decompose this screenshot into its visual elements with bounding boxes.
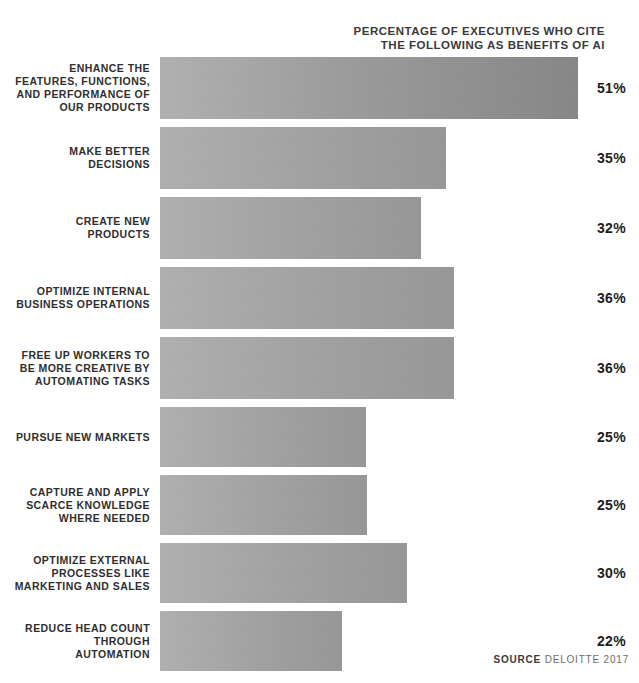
bar-category-label-line: AUTOMATION	[0, 648, 150, 661]
bar-fill[interactable]	[160, 407, 366, 467]
bar-track: 25%	[160, 475, 639, 535]
bar-category-label-line: WHERE NEEDED	[0, 512, 150, 525]
bar-track: 25%	[160, 407, 639, 467]
bar-value-label: 35%	[587, 150, 639, 166]
source-label: SOURCE	[493, 654, 541, 665]
bar-category-label-line: SCARCE KNOWLEDGE	[0, 499, 150, 512]
chart-title-line-1: PERCENTAGE OF EXECUTIVES WHO CITE	[300, 24, 605, 38]
bar-fill[interactable]	[160, 127, 446, 189]
bar-fill[interactable]	[160, 475, 367, 535]
bar-chart: PERCENTAGE OF EXECUTIVES WHO CITE THE FO…	[0, 0, 639, 683]
bar-fill[interactable]	[160, 57, 578, 119]
chart-title-line-2: THE FOLLOWING AS BENEFITS OF AI	[300, 38, 605, 52]
bar-track: 32%	[160, 197, 639, 259]
bar-value-label: 25%	[587, 497, 639, 513]
bar-value-label: 22%	[587, 633, 639, 649]
bar-row: OPTIMIZE INTERNALBUSINESS OPERATIONS36%	[0, 267, 639, 329]
bar-category-label: PURSUE NEW MARKETS	[0, 431, 160, 444]
bar-track: 30%	[160, 543, 639, 603]
bar-row: CAPTURE AND APPLYSCARCE KNOWLEDGEWHERE N…	[0, 475, 639, 535]
bar-category-label-line: AUTOMATING TASKS	[0, 375, 150, 388]
bar-category-label-line: CAPTURE AND APPLY	[0, 486, 150, 499]
bar-category-label: CREATE NEWPRODUCTS	[0, 215, 160, 241]
bar-fill[interactable]	[160, 197, 421, 259]
bar-category-label-line: FREE UP WORKERS TO	[0, 349, 150, 362]
bar-category-label-line: THROUGH	[0, 635, 150, 648]
bar-fill[interactable]	[160, 267, 454, 329]
bar-category-label: MAKE BETTERDECISIONS	[0, 145, 160, 171]
bar-category-label-line: MARKETING AND SALES	[0, 580, 150, 593]
bar-value-label: 36%	[587, 290, 639, 306]
bar-category-label: OPTIMIZE EXTERNALPROCESSES LIKEMARKETING…	[0, 554, 160, 593]
bar-value-label: 32%	[587, 220, 639, 236]
bar-value-label: 51%	[587, 80, 639, 96]
bar-fill[interactable]	[160, 611, 342, 671]
bar-category-label-line: OUR PRODUCTS	[0, 101, 150, 114]
bar-category-label: ENHANCE THEFEATURES, FUNCTIONS,AND PERFO…	[0, 62, 160, 114]
source-text: DELOITTE 2017	[545, 654, 629, 665]
bar-fill[interactable]	[160, 543, 407, 603]
bar-track: 35%	[160, 127, 639, 189]
chart-title: PERCENTAGE OF EXECUTIVES WHO CITE THE FO…	[300, 24, 605, 52]
bar-row: MAKE BETTERDECISIONS35%	[0, 127, 639, 189]
bar-track: 51%	[160, 57, 639, 119]
bar-category-label-line: CREATE NEW	[0, 215, 150, 228]
bar-row: FREE UP WORKERS TOBE MORE CREATIVE BYAUT…	[0, 337, 639, 399]
bar-row: OPTIMIZE EXTERNALPROCESSES LIKEMARKETING…	[0, 543, 639, 603]
bar-value-label: 36%	[587, 360, 639, 376]
bar-value-label: 30%	[587, 565, 639, 581]
bar-category-label-line: ENHANCE THE	[0, 62, 150, 75]
bar-category-label-line: OPTIMIZE INTERNAL	[0, 285, 150, 298]
bar-category-label-line: MAKE BETTER	[0, 145, 150, 158]
bar-category-label-line: PRODUCTS	[0, 228, 150, 241]
bar-row: ENHANCE THEFEATURES, FUNCTIONS,AND PERFO…	[0, 57, 639, 119]
bar-category-label: REDUCE HEAD COUNTTHROUGHAUTOMATION	[0, 622, 160, 661]
bar-track: 36%	[160, 267, 639, 329]
bar-category-label-line: AND PERFORMANCE OF	[0, 88, 150, 101]
bar-row: CREATE NEWPRODUCTS32%	[0, 197, 639, 259]
bar-category-label-line: BUSINESS OPERATIONS	[0, 298, 150, 311]
bar-category-label-line: OPTIMIZE EXTERNAL	[0, 554, 150, 567]
bar-category-label: OPTIMIZE INTERNALBUSINESS OPERATIONS	[0, 285, 160, 311]
bar-category-label-line: PURSUE NEW MARKETS	[0, 431, 150, 444]
bar-row: PURSUE NEW MARKETS25%	[0, 407, 639, 467]
bar-category-label-line: PROCESSES LIKE	[0, 567, 150, 580]
bar-track: 36%	[160, 337, 639, 399]
bar-category-label: CAPTURE AND APPLYSCARCE KNOWLEDGEWHERE N…	[0, 486, 160, 525]
bar-category-label: FREE UP WORKERS TOBE MORE CREATIVE BYAUT…	[0, 349, 160, 388]
bar-fill[interactable]	[160, 337, 454, 399]
bar-rows: ENHANCE THEFEATURES, FUNCTIONS,AND PERFO…	[0, 57, 639, 679]
bar-category-label-line: BE MORE CREATIVE BY	[0, 362, 150, 375]
bar-category-label-line: FEATURES, FUNCTIONS,	[0, 75, 150, 88]
source-attribution: SOURCE DELOITTE 2017	[493, 654, 629, 665]
bar-category-label-line: REDUCE HEAD COUNT	[0, 622, 150, 635]
bar-category-label-line: DECISIONS	[0, 158, 150, 171]
bar-value-label: 25%	[587, 429, 639, 445]
